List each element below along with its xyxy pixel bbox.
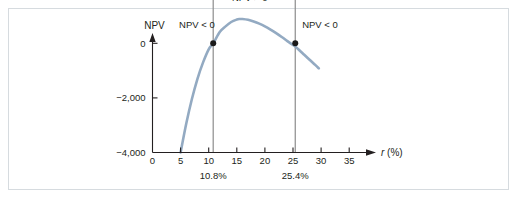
x-tick-label-25: 25	[288, 155, 299, 166]
x-axis-arrowhead	[366, 149, 376, 155]
y-axis-title: NPV	[144, 20, 165, 31]
y-axis-tick-labels: −4,000−2,0000+2,000	[116, 0, 145, 158]
x-tick-label-10: 10	[203, 155, 214, 166]
x-axis-title: r (%)	[381, 147, 403, 158]
y-tick-label-2: 0	[140, 38, 145, 49]
x-tick-label-20: 20	[260, 155, 271, 166]
npv-negative-left: NPV < 0	[179, 19, 215, 30]
npv-profile-figure: 05101520253035 −4,000−2,0000+2,000 NPV <…	[0, 0, 521, 204]
npv-positive-middle: NPV > 0	[232, 0, 268, 3]
y-axis-arrowhead	[149, 33, 155, 42]
npv-negative-right: NPV < 0	[302, 19, 338, 30]
irr-low-rate: 10.8%	[200, 170, 227, 181]
marker-irr-high	[292, 40, 298, 46]
npv-curve-line	[181, 19, 319, 153]
irr-rate-annotations: 10.8%25.4%	[200, 170, 310, 181]
npv-chart-canvas: 05101520253035 −4,000−2,0000+2,000 NPV <…	[0, 0, 521, 204]
y-axis-ticks	[153, 0, 158, 98]
npv-region-labels: NPV < 0NPV > 0NPV < 0	[179, 0, 338, 30]
x-axis-tick-labels: 05101520253035	[150, 155, 355, 166]
x-tick-label-35: 35	[344, 155, 355, 166]
irr-point-markers	[210, 40, 298, 46]
x-tick-label-5: 5	[178, 155, 183, 166]
marker-irr-low	[210, 40, 216, 46]
y-tick-label-1: −2,000	[116, 92, 145, 103]
irr-high-rate: 25.4%	[282, 170, 309, 181]
x-tick-label-15: 15	[232, 155, 243, 166]
x-tick-label-0: 0	[150, 155, 155, 166]
x-tick-label-30: 30	[316, 155, 327, 166]
x-axis-ticks	[181, 148, 350, 153]
y-tick-label-0: −4,000	[116, 147, 145, 158]
x-axis-title-unit: (%)	[384, 147, 402, 158]
